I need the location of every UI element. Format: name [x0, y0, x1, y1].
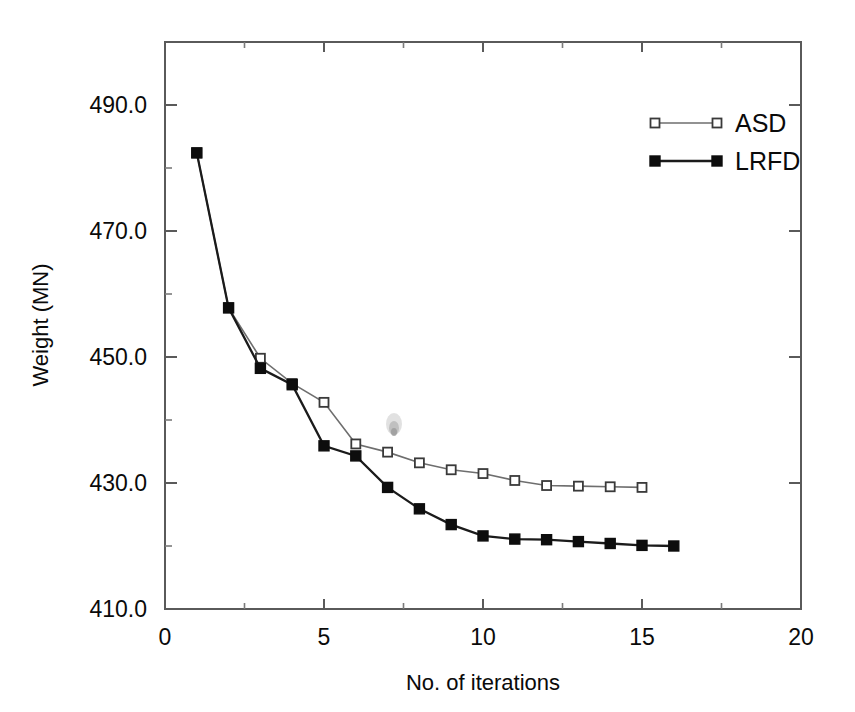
x-tick-label: 5 [318, 624, 331, 650]
series-asd [192, 148, 646, 492]
axis-tick-labels: 05101520410.0430.0450.0470.0490.0 [89, 92, 813, 650]
y-tick-label: 410.0 [89, 596, 147, 622]
x-tick-label: 0 [159, 624, 172, 650]
data-point-lrfd [319, 441, 329, 451]
data-point-asd [606, 482, 615, 491]
data-point-lrfd [542, 535, 552, 545]
data-series-group [192, 148, 679, 551]
legend-label-asd: ASD [735, 109, 786, 137]
legend-marker-filled-square [712, 156, 722, 166]
chart-figure: 05101520410.0430.0450.0470.0490.0 No. of… [0, 0, 855, 712]
data-point-asd [574, 482, 583, 491]
x-tick-label: 20 [788, 624, 814, 650]
legend-marker-filled-square [650, 156, 660, 166]
y-tick-label: 470.0 [89, 218, 147, 244]
chart-canvas: 05101520410.0430.0450.0470.0490.0 No. of… [0, 0, 855, 712]
data-point-asd [383, 448, 392, 457]
data-point-lrfd [446, 520, 456, 530]
data-point-lrfd [669, 541, 679, 551]
data-point-lrfd [351, 451, 361, 461]
legend-entry-lrfd[interactable]: LRFD [650, 147, 800, 175]
legend-label-lrfd: LRFD [735, 147, 800, 175]
y-tick-label: 450.0 [89, 344, 147, 370]
legend-marker-open-square [713, 119, 722, 128]
data-point-lrfd [255, 363, 265, 373]
legend-marker-open-square [651, 119, 660, 128]
data-point-asd [542, 481, 551, 490]
y-axis-title: Weight (MN) [28, 263, 53, 386]
scan-artifact-smudge [386, 413, 402, 436]
data-point-asd [510, 476, 519, 485]
plot-frame [165, 42, 801, 609]
chart-legend: ASD LRFD [650, 109, 800, 175]
data-point-lrfd [224, 303, 234, 313]
data-point-lrfd [414, 504, 424, 514]
data-point-lrfd [192, 148, 202, 158]
data-point-asd [447, 465, 456, 474]
x-tick-label: 15 [629, 624, 655, 650]
data-point-lrfd [637, 540, 647, 550]
data-point-asd [351, 439, 360, 448]
data-point-lrfd [383, 482, 393, 492]
data-point-asd [415, 458, 424, 467]
data-point-lrfd [605, 538, 615, 548]
legend-entry-asd[interactable]: ASD [651, 109, 787, 137]
data-point-asd [638, 483, 647, 492]
data-point-lrfd [478, 531, 488, 541]
series-path-asd [197, 153, 642, 488]
x-axis-title: No. of iterations [406, 670, 560, 695]
y-tick-label: 430.0 [89, 470, 147, 496]
y-tick-label: 490.0 [89, 92, 147, 118]
data-point-lrfd [510, 534, 520, 544]
axis-ticks [165, 42, 801, 609]
data-point-asd [479, 469, 488, 478]
data-point-lrfd [287, 380, 297, 390]
x-tick-label: 10 [470, 624, 496, 650]
data-point-asd [320, 398, 329, 407]
data-point-lrfd [573, 537, 583, 547]
